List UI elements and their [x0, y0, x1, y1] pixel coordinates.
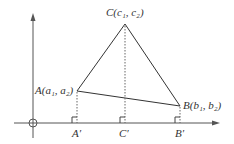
point-a-prime-label: A′: [72, 128, 81, 139]
point-c-label: C(c₁, c₂): [106, 7, 144, 18]
point-c-prime-label: C′: [119, 128, 129, 139]
side-ab: [77, 91, 180, 106]
side-ac: [77, 24, 125, 91]
point-b-label: B(b₁, b₂): [183, 100, 221, 111]
side-cb: [125, 24, 180, 106]
right-angle-c-icon: [120, 117, 125, 123]
point-a-label: A(a₁, a₂): [35, 85, 73, 96]
y-axis-arrow-icon: [31, 13, 36, 21]
point-b-prime-label: B′: [175, 128, 184, 139]
right-angle-b-icon: [175, 117, 180, 123]
right-angle-a-icon: [72, 117, 77, 123]
x-axis-arrow-icon: [212, 121, 220, 126]
diagram-canvas: [0, 0, 234, 144]
